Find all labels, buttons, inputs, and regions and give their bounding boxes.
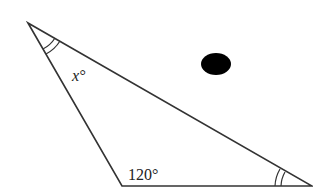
triangle-diagram: x° 120° xyxy=(0,0,313,187)
triangle xyxy=(28,23,312,186)
angle-mark-bottom-right-outer xyxy=(275,169,280,186)
angle-mark-bottom-right-inner xyxy=(281,172,285,186)
angle-mark-top-left-inner xyxy=(43,38,55,49)
angle-label-x: x° xyxy=(71,67,86,84)
black-dot xyxy=(201,53,231,75)
angle-label-120: 120° xyxy=(128,166,158,183)
angle-mark-top-left-outer xyxy=(46,41,60,54)
